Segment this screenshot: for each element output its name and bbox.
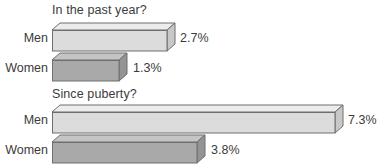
category-label-women: Women: [0, 143, 48, 157]
value-label-men: 2.7%: [180, 31, 209, 45]
bar-shape-men: [52, 22, 176, 52]
panel-title: In the past year?: [52, 2, 147, 18]
bar-men[interactable]: [52, 22, 176, 52]
panel-title: Since puberty?: [52, 86, 137, 102]
value-label-men: 7.3%: [348, 113, 377, 127]
chart-panel-past-year: In the past year? Men 2.7% Women: [0, 0, 385, 84]
value-label-women: 1.3%: [133, 61, 162, 75]
category-label-women: Women: [0, 61, 48, 75]
category-label-men: Men: [0, 113, 48, 127]
bar-chart: In the past year? Men 2.7% Women: [0, 0, 385, 168]
bar-women[interactable]: [52, 52, 128, 82]
value-label-women: 3.8%: [211, 143, 240, 157]
bar-men[interactable]: [52, 104, 344, 134]
chart-panel-since-puberty: Since puberty? Men 7.3% Women: [0, 84, 385, 168]
bar-row-men: Men 7.3%: [0, 104, 385, 134]
bar-row-women: Women 3.8%: [0, 134, 385, 164]
bar-row-women: Women 1.3%: [0, 52, 385, 82]
bar-shape-men: [52, 104, 344, 134]
bar-row-men: Men 2.7%: [0, 22, 385, 52]
bar-women[interactable]: [52, 134, 206, 164]
bar-shape-women: [52, 134, 206, 164]
bar-shape-women: [52, 52, 128, 82]
category-label-men: Men: [0, 31, 48, 45]
